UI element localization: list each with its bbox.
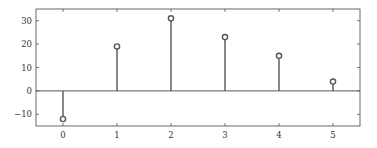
plot-border xyxy=(36,9,360,126)
y-axis-ticks: 3020100−10 xyxy=(14,16,360,120)
stem-marker-circle xyxy=(114,44,119,49)
x-tick-label: 1 xyxy=(114,130,119,140)
stem-marker-circle xyxy=(276,53,281,58)
stem-series xyxy=(60,16,335,122)
stem-marker-circle xyxy=(60,116,65,121)
y-tick-label: −10 xyxy=(14,109,32,119)
x-axis-ticks: 012345 xyxy=(60,9,335,140)
x-tick-label: 5 xyxy=(330,130,335,140)
y-tick-label: 20 xyxy=(21,39,32,49)
y-tick-label: 0 xyxy=(27,86,32,96)
x-tick-label: 2 xyxy=(168,130,173,140)
x-tick-label: 4 xyxy=(276,130,281,140)
y-tick-label: 30 xyxy=(21,16,32,26)
stem-marker-circle xyxy=(222,34,227,39)
stem-marker-circle xyxy=(330,79,335,84)
x-tick-label: 0 xyxy=(60,130,65,140)
y-tick-label: 10 xyxy=(21,63,32,73)
stem-chart: 012345 3020100−10 xyxy=(0,0,377,148)
plot-frame xyxy=(36,9,360,126)
stem-marker-circle xyxy=(168,16,173,21)
x-tick-label: 3 xyxy=(222,130,227,140)
